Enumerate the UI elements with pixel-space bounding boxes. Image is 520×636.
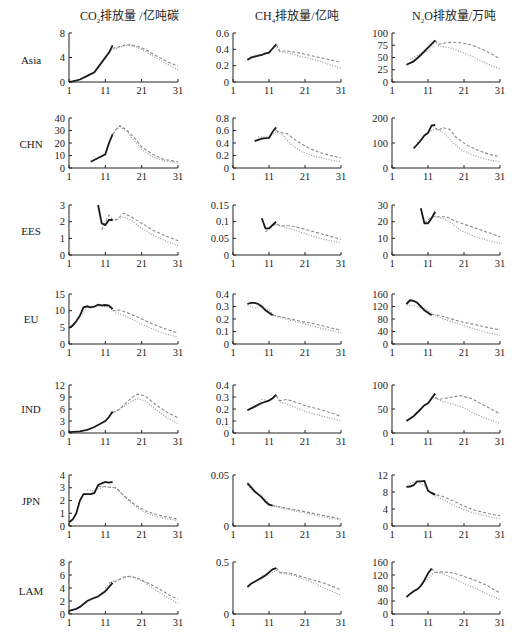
y-tick-label: 2 [60,216,65,227]
x-tick-label: 1 [230,258,235,269]
panel-lam-co2: 111213102468 [60,557,184,629]
series-dotted [113,399,178,424]
y-tick-label: 5 [60,322,65,333]
panel-asia-co2: 1112131048 [60,28,184,97]
series-dashed [424,217,500,237]
x-tick-label: 1 [230,347,235,358]
series-historical [406,569,431,598]
series-dashed [113,310,178,333]
x-tick-label: 11 [264,436,274,447]
panel-ees-n2o: 11121310102030 [378,200,506,270]
x-tick-label: 11 [264,347,274,358]
x-tick-label: 1 [66,85,71,96]
series-dashed [113,394,178,418]
series-historical [421,208,435,223]
series-dotted [102,45,178,70]
y-tick-label: 12 [378,470,389,481]
x-tick-label: 1 [66,617,71,628]
x-tick-label: 21 [300,436,311,447]
series-dotted [417,129,500,162]
series-dotted [262,570,341,595]
x-tick-label: 11 [264,85,274,96]
y-tick-label: 10 [55,150,66,161]
series-historical [247,568,276,587]
y-tick-label: 40 [378,326,389,337]
x-tick-label: 31 [336,347,347,358]
x-tick-label: 21 [300,617,311,628]
series-dashed [276,131,341,159]
y-tick-label: 0.15 [211,200,229,211]
y-tick-label: 25 [378,64,389,75]
panel-asia-ch4: 111213100.20.40.6 [216,28,346,97]
x-tick-label: 31 [173,258,184,269]
y-tick-label: 0.6 [216,125,229,136]
panel-eu-ch4: 111213100.10.20.30.4 [216,289,346,359]
y-tick-label: 0.2 [216,404,229,415]
y-tick-label: 0.5 [216,557,229,568]
series-historical [414,125,436,149]
series-dashed [276,396,341,416]
x-tick-label: 11 [100,347,110,358]
y-tick-label: 0 [224,339,229,350]
series-dotted [69,306,178,338]
x-tick-label: 31 [495,171,506,182]
y-tick-label: 0.2 [216,314,229,325]
y-tick-label: 50 [378,404,389,415]
series-historical [69,583,113,611]
x-tick-label: 11 [264,258,274,269]
x-tick-label: 21 [136,529,147,540]
x-tick-label: 1 [66,529,71,540]
y-tick-label: 0 [383,250,388,261]
x-tick-label: 11 [423,258,433,269]
y-tick-label: 3 [60,416,65,427]
y-tick-label: 0.3 [216,392,229,403]
series-dotted [276,225,341,243]
x-tick-label: 31 [336,617,347,628]
y-tick-label: 160 [372,289,388,300]
x-tick-label: 11 [423,171,433,182]
y-tick-label: 0.1 [216,416,229,427]
panel-jpn-co2: 111213101234 [60,470,184,541]
series-dotted [247,485,341,520]
x-tick-label: 1 [230,436,235,447]
x-tick-label: 1 [66,436,71,447]
x-tick-label: 1 [66,171,71,182]
panel-ees-ch4: 111213100.050.10.15 [211,200,347,270]
x-tick-label: 11 [423,436,433,447]
x-tick-label: 31 [173,85,184,96]
x-tick-label: 21 [300,85,311,96]
panel-ind-co2: 1112131036912 [55,380,184,448]
y-tick-label: 0 [224,609,229,620]
panel-lam-ch4: 111213100.5 [216,557,346,629]
y-tick-label: 15 [55,289,66,300]
panel-ees-co2: 11121310123 [60,200,184,270]
y-tick-label: 0 [224,77,229,88]
y-tick-label: 3 [60,482,65,493]
y-tick-label: 120 [372,570,388,581]
x-tick-label: 31 [173,529,184,540]
y-tick-label: 6 [60,404,65,415]
x-tick-label: 11 [264,529,274,540]
x-tick-label: 21 [300,258,311,269]
y-tick-label: 30 [55,125,66,136]
y-tick-label: 0 [60,609,65,620]
x-tick-label: 31 [495,529,506,540]
y-tick-label: 0 [224,250,229,261]
y-tick-label: 0 [60,521,65,532]
series-historical [406,394,435,421]
x-tick-label: 31 [336,85,347,96]
x-tick-label: 31 [495,617,506,628]
x-tick-label: 21 [300,529,311,540]
y-tick-label: 0 [224,428,229,439]
x-tick-label: 1 [230,171,235,182]
y-tick-label: 6 [60,570,65,581]
x-tick-label: 1 [389,617,394,628]
y-tick-label: 0 [60,250,65,261]
y-tick-label: 0.4 [216,44,230,55]
series-dotted [410,481,500,518]
x-tick-label: 21 [136,258,147,269]
x-tick-label: 1 [230,529,235,540]
x-tick-label: 11 [264,617,274,628]
y-tick-label: 50 [378,52,389,63]
series-historical [247,44,276,60]
